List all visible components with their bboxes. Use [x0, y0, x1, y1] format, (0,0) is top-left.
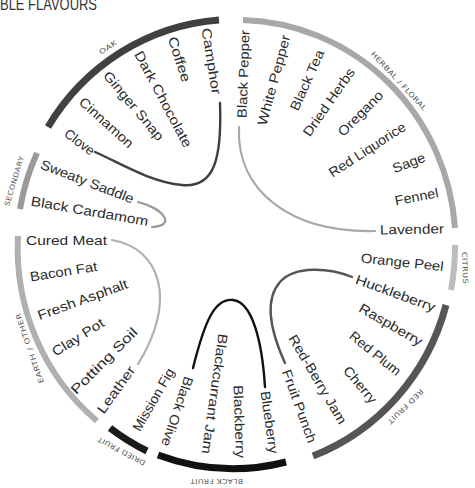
flavour-label: Fresh Asphalt — [35, 276, 130, 323]
flavour-label: Clay Pot — [49, 315, 107, 359]
flavour-label: Fennel — [394, 185, 440, 208]
page-title: BLE FLAVOURS — [0, 0, 97, 14]
ring-citrus — [451, 245, 455, 290]
flavour-label: Camphor — [199, 27, 224, 96]
category-label-black-fruit: BLACK FRUIT — [190, 477, 243, 485]
flavour-label: Cherry — [340, 363, 380, 407]
flavour-wheel: BLE FLAVOURS OAK HERBAL / FLORAL CITRUS … — [0, 0, 475, 488]
flavour-label: Sage — [390, 150, 427, 176]
category-label-citrus: CITRUS — [460, 252, 469, 285]
connector-oak — [95, 103, 220, 185]
flavour-label: Black Pepper — [235, 29, 253, 118]
ring-red-fruit — [313, 305, 446, 456]
flavour-label: Blackcurrant Jam — [199, 333, 231, 455]
flavour-label: White Pepper — [255, 33, 294, 127]
flavour-label: Cured Meat — [26, 233, 107, 248]
flavour-label: Clove — [61, 126, 97, 158]
connector-red-fruit — [271, 270, 352, 363]
connector-herbal-floral — [239, 127, 375, 231]
flavour-label: Blueberry — [258, 390, 282, 455]
flavour-label: Bacon Fat — [29, 259, 99, 284]
flavour-label: Blackberry — [231, 385, 249, 459]
flavour-label: Lavender — [380, 221, 445, 237]
flavour-label: Coffee — [165, 35, 194, 84]
flavour-label: Orange Peel — [360, 251, 444, 275]
ring-black-fruit — [158, 455, 286, 469]
